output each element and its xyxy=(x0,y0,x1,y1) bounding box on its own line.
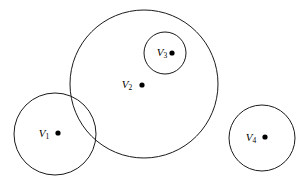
vertex-label-v2: V2 xyxy=(122,78,133,92)
vertex-label-v1: V1 xyxy=(39,127,50,141)
circle-diagram: V1 V2 V3 V4 xyxy=(0,0,308,182)
vertex-dot-v3 xyxy=(169,50,174,55)
vertex-dot-v2 xyxy=(139,82,144,87)
circle-v4[interactable] xyxy=(229,105,295,171)
diagram-canvas: V1 V2 V3 V4 xyxy=(0,0,308,182)
vertex-label-v4: V4 xyxy=(246,131,257,145)
vertex-label-v3: V3 xyxy=(157,46,168,60)
circle-v1[interactable] xyxy=(14,93,96,175)
vertex-dot-v1 xyxy=(55,130,60,135)
vertex-dot-v4 xyxy=(262,134,267,139)
